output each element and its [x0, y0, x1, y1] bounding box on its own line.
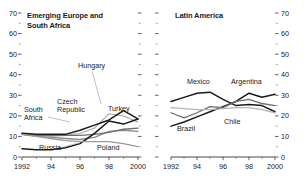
svg-text:Poland: Poland	[97, 143, 119, 152]
svg-text:Mexico: Mexico	[187, 77, 210, 86]
y-tick-label: 30	[281, 91, 289, 100]
chart-right: 0010102020303040405050606070701992949698…	[153, 0, 307, 182]
label-leader-line	[92, 71, 101, 104]
panel-emerging-europe-south-africa: Emerging Europe and South Africa 0102030…	[0, 0, 153, 182]
y-tick-label: 40	[9, 70, 17, 79]
x-tick-label: 94	[47, 162, 55, 171]
y-tick-label: 70	[281, 9, 289, 18]
y-tick-label: 70	[9, 9, 17, 18]
y-tick-label: 40	[281, 70, 289, 79]
y-tick-label: 50	[9, 50, 17, 59]
svg-text:Africa: Africa	[24, 113, 42, 122]
x-tick-label: 96	[219, 162, 227, 171]
svg-text:Argentina: Argentina	[231, 77, 262, 86]
x-tick-label: 1992	[14, 162, 30, 171]
y-tick-label: 0	[13, 153, 17, 162]
x-tick-label: 2000	[130, 162, 146, 171]
y-tick-label: 30	[9, 91, 17, 100]
series-label: Turkey	[108, 104, 130, 113]
x-tick-label: 1992	[163, 162, 179, 171]
x-tick-label: 98	[245, 162, 253, 171]
series-label: CzechRepublic	[57, 97, 85, 114]
series-label: Argentina	[231, 77, 262, 86]
y-tick-label: 0	[281, 153, 285, 162]
series-label: Poland	[97, 143, 119, 152]
svg-text:Russia: Russia	[39, 143, 61, 152]
svg-text:Chile: Chile	[224, 117, 240, 126]
label-leader-line	[48, 117, 70, 122]
y-tick-label: 20	[9, 111, 17, 120]
y-tick-label: 50	[281, 50, 289, 59]
x-tick-label: 98	[105, 162, 113, 171]
y-tick-label: 10	[9, 132, 17, 141]
series-label: Chile	[224, 117, 240, 126]
x-tick-label: 96	[76, 162, 84, 171]
y-tick-label: 60	[9, 29, 17, 38]
series-label: Hungary	[78, 61, 106, 70]
series-label: Russia	[39, 143, 61, 152]
series-label: SouthAfrica	[24, 105, 43, 122]
series-line	[171, 108, 275, 113]
svg-text:Brazil: Brazil	[177, 124, 195, 133]
svg-text:Republic: Republic	[57, 105, 85, 114]
y-tick-label: 20	[281, 111, 289, 120]
y-tick-label: 60	[281, 29, 289, 38]
x-tick-label: 2000	[267, 162, 283, 171]
figure-root: Emerging Europe and South Africa 0102030…	[0, 0, 307, 182]
series-label: Mexico	[187, 77, 210, 86]
svg-text:Turkey: Turkey	[108, 104, 130, 113]
y-tick-label: 10	[281, 132, 289, 141]
chart-left: 01020304050607019929496982000HungaryCzec…	[0, 0, 153, 182]
svg-text:Hungary: Hungary	[78, 61, 106, 70]
panel-latin-america: Latin America 00101020203030404050506060…	[153, 0, 307, 182]
x-tick-label: 94	[193, 162, 201, 171]
series-label: Brazil	[177, 124, 195, 133]
